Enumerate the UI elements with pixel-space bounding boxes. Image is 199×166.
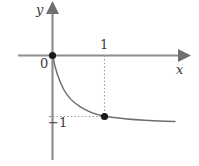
origin-label: 0 <box>40 57 48 70</box>
y-tick-label-negative-one: −1 <box>48 116 67 129</box>
origin-point-marker <box>49 52 56 59</box>
graph-canvas <box>0 0 199 166</box>
x-tick-label-one: 1 <box>100 38 108 51</box>
y-axis-label: y <box>36 3 43 16</box>
math-figure: y x 0 1 −1 <box>0 0 199 166</box>
x-axis-label: x <box>176 63 183 76</box>
curve-point-marker <box>101 113 108 120</box>
function-curve <box>53 56 175 122</box>
